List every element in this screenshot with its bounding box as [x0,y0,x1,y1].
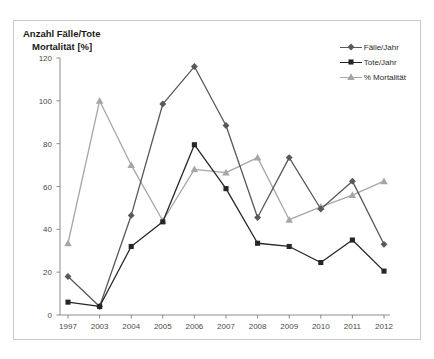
y-axis-tick-label: 100 [26,96,52,105]
y-axis-tick-label: 0 [26,311,52,320]
y-axis-tick-label: 80 [26,139,52,148]
chart-title: Anzahl Fälle/Tote Mortalität [%] [23,27,100,53]
y-axis-tick-label: 20 [26,268,52,277]
y-axis-tick-label: 40 [26,225,52,234]
series-line [68,101,384,243]
legend-marker-shape [346,43,355,52]
plot-svg [60,58,390,315]
chart-title-line-2: Mortalität [%] [23,40,100,53]
series-line [68,67,384,307]
legend-item-label: Fälle/Jahr [364,43,399,52]
x-axis-tick-label: 2012 [364,322,404,331]
legend-marker-icon [340,42,362,52]
plot-area: 0204060801001201997200320042005200620072… [60,58,390,315]
series-mortalit-t [64,97,388,246]
chart-title-line-1: Anzahl Fälle/Tote [23,27,100,40]
legend-marker-glyph [347,44,354,51]
series-f-lle-jahr [65,63,388,310]
y-axis-tick-label: 60 [26,182,52,191]
data-point [380,177,388,184]
series-tote-jahr [65,142,386,309]
series-line [68,145,384,307]
legend-item: Fälle/Jahr [340,42,406,52]
y-axis-tick-label: 120 [26,54,52,63]
chart-figure: Anzahl Fälle/Tote Mortalität [%] Fälle/J… [13,20,421,340]
